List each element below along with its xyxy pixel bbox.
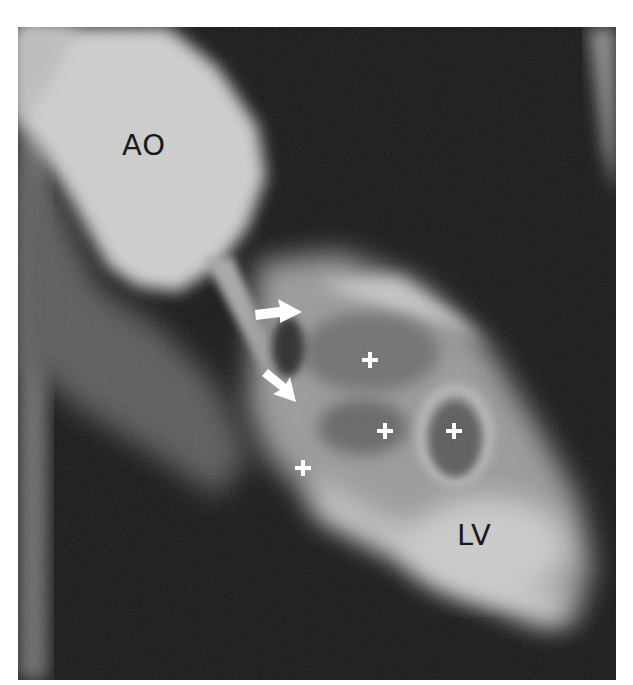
left-ventricle-label: LV (457, 518, 492, 552)
film-grain (18, 27, 616, 680)
angiogram-figure: AO LV (18, 27, 616, 680)
caption-fragment (0, 0, 633, 6)
aorta-label: AO (122, 128, 166, 162)
angiogram-image (18, 27, 616, 680)
